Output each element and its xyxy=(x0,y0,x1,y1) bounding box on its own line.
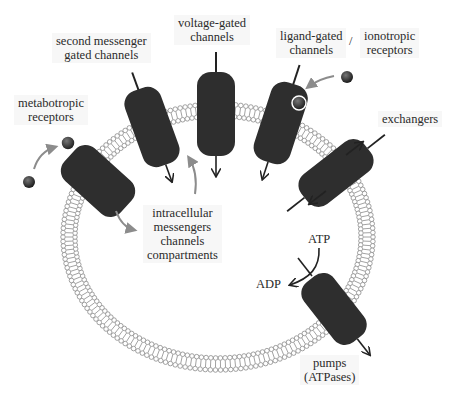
label-line: channels xyxy=(147,234,218,248)
label-separator: / xyxy=(349,34,352,48)
ligand-binding-arrow xyxy=(34,147,55,169)
voltage-gated-channel xyxy=(197,52,235,176)
label-line: gated channels xyxy=(56,48,147,62)
ligand-bound-icon xyxy=(61,136,75,150)
free-ligand-icon xyxy=(341,71,353,83)
label-atp: ATP xyxy=(304,231,334,247)
label-adp: ADP xyxy=(252,276,285,292)
ligand-binding-arrow xyxy=(308,76,334,87)
signal-arrow xyxy=(189,158,196,194)
label-voltage-gated-channels: voltage-gated channels xyxy=(174,15,250,45)
pump-atpase xyxy=(296,267,385,366)
label-line: ligand-gated xyxy=(280,29,342,43)
label-ligand-gated-channels: ligand-gated channels xyxy=(276,28,346,58)
label-pumps-atpases: pumps (ATPases) xyxy=(300,355,359,385)
label-line: (ATPases) xyxy=(304,370,355,384)
label-exchangers: exchangers xyxy=(378,111,442,127)
label-line: receptors xyxy=(364,43,415,57)
free-ligand-icon xyxy=(23,176,35,188)
label-line: voltage-gated xyxy=(178,16,246,30)
label-line: channels xyxy=(280,43,342,57)
label-line: messengers xyxy=(147,220,218,234)
label-line: pumps xyxy=(304,356,355,370)
label-ionotropic-receptors: ionotropic receptors xyxy=(360,28,419,58)
label-intracellular-messengers: intracellular messengers channels compar… xyxy=(143,205,222,263)
ligand-bound-icon xyxy=(292,96,306,110)
ligand-gated-channel xyxy=(244,59,317,185)
label-line: ionotropic xyxy=(364,29,415,43)
label-line: intracellular xyxy=(147,206,218,220)
second-messenger-gated-channel xyxy=(114,66,189,188)
label-line: channels xyxy=(178,30,246,44)
label-metabotropic-receptors: metabotropic receptors xyxy=(14,95,88,125)
label-line: receptors xyxy=(18,110,84,124)
label-line: metabotropic xyxy=(18,96,84,110)
label-second-messenger-gated-channels: second messenger gated channels xyxy=(52,33,151,63)
label-line: compartments xyxy=(147,248,218,262)
label-line: second messenger xyxy=(56,34,147,48)
